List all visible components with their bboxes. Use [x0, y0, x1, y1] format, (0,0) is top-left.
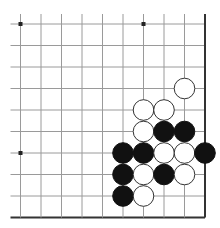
white-stone[interactable] — [133, 100, 154, 121]
black-stone[interactable] — [113, 186, 134, 207]
black-stone[interactable] — [113, 143, 134, 164]
go-board[interactable] — [0, 0, 220, 228]
white-stone[interactable] — [174, 143, 195, 164]
white-stone[interactable] — [133, 121, 154, 142]
white-stone[interactable] — [174, 164, 195, 185]
star-point-icon — [19, 151, 23, 155]
board-grid — [11, 14, 206, 218]
white-stone[interactable] — [154, 100, 175, 121]
star-point-icon — [19, 22, 23, 26]
black-stone[interactable] — [154, 121, 175, 142]
white-stone[interactable] — [133, 164, 154, 185]
white-stone[interactable] — [154, 143, 175, 164]
white-stone[interactable] — [174, 78, 195, 99]
black-stone[interactable] — [154, 164, 175, 185]
black-stone[interactable] — [195, 143, 216, 164]
white-stone[interactable] — [133, 186, 154, 207]
star-point-icon — [142, 22, 146, 26]
black-stone[interactable] — [113, 164, 134, 185]
black-stone[interactable] — [133, 143, 154, 164]
black-stone[interactable] — [174, 121, 195, 142]
